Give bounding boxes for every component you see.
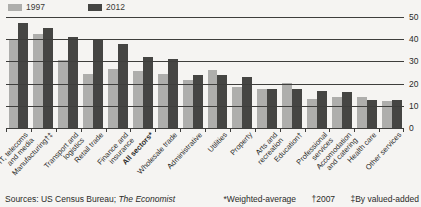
bar-1997 [158, 74, 168, 128]
bar-group [255, 17, 280, 128]
bar-group [180, 17, 205, 128]
gridline-10 [6, 106, 404, 107]
y-tick-label-50: 50 [409, 13, 418, 22]
axis-tick [280, 128, 281, 132]
bar-2012 [392, 100, 402, 128]
bar-2012 [267, 89, 277, 128]
bar-1997 [307, 99, 317, 128]
y-tick-label-20: 20 [409, 80, 418, 89]
bar-2012 [317, 91, 327, 128]
chart-card: 1997 2012 01020304050 IT, telecoms and m… [0, 0, 421, 207]
bar-2012 [367, 100, 377, 128]
bar-group [155, 17, 180, 128]
gridline-20 [6, 84, 404, 85]
bar-1997 [232, 87, 242, 128]
axis-tick [56, 128, 57, 132]
y-tick-label-0: 0 [409, 124, 414, 133]
bar-group [205, 17, 230, 128]
bar-2012 [168, 59, 178, 128]
bar-group [354, 17, 379, 128]
bar-1997 [83, 74, 93, 128]
legend-item-1997: 1997 [8, 2, 45, 12]
legend-swatch-1997 [8, 4, 22, 11]
footnotes: *Weighted-average †2007 ‡By valued-added [210, 194, 419, 204]
bar-1997 [208, 70, 218, 128]
y-tick-label-10: 10 [409, 102, 418, 111]
bar-group [31, 17, 56, 128]
bar-1997 [257, 89, 267, 128]
bar-group [280, 17, 305, 128]
bar-group [6, 17, 31, 128]
x-category-label: Property [229, 131, 254, 157]
plot-area [6, 17, 404, 128]
legend-label-2012: 2012 [106, 2, 125, 12]
bar-2012 [342, 92, 352, 128]
sources-text: Sources: US Census Bureau; [5, 194, 118, 204]
bar-group [56, 17, 81, 128]
legend-item-2012: 2012 [88, 2, 125, 12]
bar-2012 [43, 28, 53, 128]
footnote-weighted-average: *Weighted-average [223, 194, 296, 204]
axis-tick [31, 128, 32, 132]
bar-1997 [133, 71, 143, 128]
axis-tick [6, 128, 7, 132]
bar-2012 [143, 57, 153, 128]
axis-tick [106, 128, 107, 132]
bar-2012 [68, 37, 78, 128]
gridline-50 [6, 17, 404, 18]
axis-tick [130, 128, 131, 132]
y-tick-label-40: 40 [409, 35, 418, 44]
bar-1997 [357, 97, 367, 128]
axis-tick [354, 128, 355, 132]
bar-group [379, 17, 404, 128]
axis-tick [403, 128, 404, 132]
bar-group [130, 17, 155, 128]
sources-publication: The Economist [118, 194, 175, 204]
bar-1997 [332, 97, 342, 128]
x-category-label: Utilities [207, 131, 229, 154]
bar-1997 [108, 69, 118, 128]
footnote-value-added: ‡By valued-added [350, 194, 419, 204]
bar-group [106, 17, 131, 128]
bar-group [305, 17, 330, 128]
axis-tick [305, 128, 306, 132]
legend-label-1997: 1997 [26, 2, 45, 12]
axis-tick [81, 128, 82, 132]
y-tick-label-30: 30 [409, 57, 418, 66]
bar-1997 [58, 60, 68, 128]
legend-swatch-2012 [88, 4, 102, 11]
footnote-2007: †2007 [311, 194, 335, 204]
bar-1997 [33, 34, 43, 128]
axis-tick [155, 128, 156, 132]
bar-group [329, 17, 354, 128]
gridline-40 [6, 39, 404, 40]
bar-2012 [118, 44, 128, 128]
sources-note: Sources: US Census Bureau; The Economist [5, 194, 175, 204]
gridline-30 [6, 61, 404, 62]
axis-tick [329, 128, 330, 132]
axis-tick [180, 128, 181, 132]
bar-group [230, 17, 255, 128]
bar-1997 [183, 80, 193, 128]
bar-group [81, 17, 106, 128]
bar-2012 [242, 77, 252, 128]
axis-tick [230, 128, 231, 132]
axis-tick [379, 128, 380, 132]
axis-tick [205, 128, 206, 132]
axis-tick [255, 128, 256, 132]
bar-2012 [292, 89, 302, 128]
